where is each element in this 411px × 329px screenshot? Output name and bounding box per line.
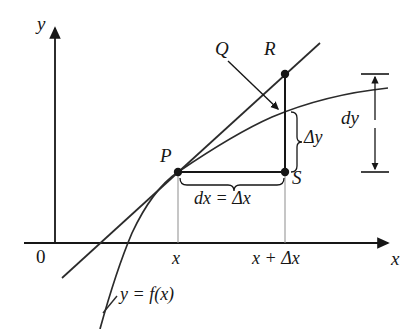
x-tick-label-x-plus-delta-x: x + Δx xyxy=(252,249,300,267)
delta-y-brace-label: Δy xyxy=(304,128,323,146)
y-axis-label: y xyxy=(37,14,45,33)
curve-label-leader xyxy=(103,296,117,313)
curve-label: y = f(x) xyxy=(120,285,174,303)
dy-arrow-label: dy xyxy=(341,108,359,127)
point-S-marker xyxy=(281,168,289,176)
point-label-S: S xyxy=(292,168,302,187)
dx-brace-label: dx = Δx xyxy=(194,189,251,207)
origin-label: 0 xyxy=(36,247,46,266)
point-label-P: P xyxy=(160,146,172,165)
point-R-marker xyxy=(281,70,289,78)
point-label-Q: Q xyxy=(215,39,229,58)
x-axis-label: x xyxy=(391,249,399,268)
diagram-canvas xyxy=(0,0,411,329)
delta-y-brace xyxy=(291,112,302,172)
x-tick-label-x: x xyxy=(172,249,180,267)
differentials-figure: y x 0 x x + Δx P Q R S dx = Δx Δy dy y =… xyxy=(0,0,411,329)
point-label-R: R xyxy=(264,39,276,58)
q-leader-arrow xyxy=(228,61,278,109)
point-P-marker xyxy=(174,168,182,176)
